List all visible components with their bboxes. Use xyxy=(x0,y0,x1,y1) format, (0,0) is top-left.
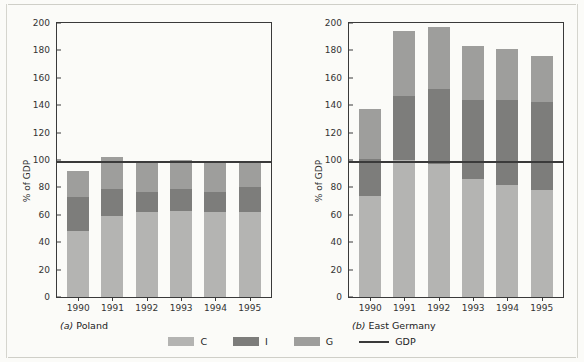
bar-segment-c xyxy=(359,196,381,297)
stacked-bar[interactable] xyxy=(393,23,415,297)
y-axis-tick-label: 0 xyxy=(44,292,50,302)
y-axis-tick-label: 200 xyxy=(33,18,50,28)
x-axis-tick-label: 1995 xyxy=(530,303,553,313)
panel-caption-prefix-poland: (a) xyxy=(60,320,73,331)
chart-legend: CIGGDP xyxy=(0,336,584,347)
bar-segment-c xyxy=(204,212,226,297)
bar-segment-c xyxy=(462,179,484,297)
x-axis-tick-mark xyxy=(147,297,148,301)
legend-label: C xyxy=(200,336,207,347)
x-axis-tick-label: 1991 xyxy=(393,303,416,313)
y-axis-tick-label: 20 xyxy=(39,265,50,275)
y-axis-tick-label: 140 xyxy=(33,100,50,110)
x-axis-tick-mark xyxy=(215,297,216,301)
x-axis-tick-label: 1993 xyxy=(462,303,485,313)
chart-panel-east-germany: % of GDP 0204060801001201401601802001990… xyxy=(292,0,584,362)
x-axis-tick-label: 1993 xyxy=(170,303,193,313)
y-axis-tick-label: 100 xyxy=(33,155,50,165)
y-axis-tick-label: 80 xyxy=(331,182,342,192)
bar-segment-c xyxy=(67,231,89,297)
stacked-bar[interactable] xyxy=(67,23,89,297)
bar-segment-g xyxy=(359,109,381,158)
plot-area-poland: 0204060801001201401601802001990199119921… xyxy=(56,22,272,298)
bar-segment-g xyxy=(67,171,89,197)
panel-caption-east-germany: (b) East Germany xyxy=(352,320,436,331)
stacked-bar[interactable] xyxy=(239,23,261,297)
bar-segment-c xyxy=(531,190,553,297)
legend-item-gdp[interactable]: GDP xyxy=(359,336,415,347)
bar-segment-i xyxy=(239,187,261,212)
legend-item-i[interactable]: I xyxy=(233,336,268,347)
y-axis-tick-label: 140 xyxy=(325,100,342,110)
x-axis-tick-mark xyxy=(507,297,508,301)
legend-swatch-icon xyxy=(294,337,320,346)
bar-segment-i xyxy=(101,189,123,216)
legend-swatch-icon xyxy=(233,337,259,346)
bar-segment-i xyxy=(67,197,89,231)
y-axis-tick-label: 0 xyxy=(336,292,342,302)
x-axis-tick-mark xyxy=(181,297,182,301)
bar-segment-c xyxy=(170,211,192,297)
bar-segment-g xyxy=(496,49,518,100)
panel-caption-text-poland: Poland xyxy=(76,320,108,331)
bar-segment-i xyxy=(170,189,192,211)
bar-segment-i xyxy=(204,192,226,213)
stacked-bar[interactable] xyxy=(496,23,518,297)
x-axis-tick-label: 1992 xyxy=(427,303,450,313)
panel-caption-poland: (a) Poland xyxy=(60,320,108,331)
y-axis-tick-label: 40 xyxy=(39,237,50,247)
bar-segment-i xyxy=(359,159,381,196)
legend-label: G xyxy=(326,336,333,347)
stacked-bar[interactable] xyxy=(204,23,226,297)
bar-segment-c xyxy=(239,212,261,297)
y-axis-tick-label: 120 xyxy=(33,128,50,138)
legend-line-icon xyxy=(359,341,389,343)
bar-segment-i xyxy=(428,89,450,164)
y-axis-tick-label: 160 xyxy=(325,73,342,83)
bar-segment-g xyxy=(428,27,450,89)
bar-segment-g xyxy=(531,56,553,103)
y-axis-tick-label: 40 xyxy=(331,237,342,247)
x-axis-tick-mark xyxy=(250,297,251,301)
panel-caption-text-east-germany: East Germany xyxy=(368,320,435,331)
legend-item-c[interactable]: C xyxy=(168,336,207,347)
bar-segment-i xyxy=(136,192,158,213)
x-axis-tick-label: 1992 xyxy=(135,303,158,313)
x-axis-tick-mark xyxy=(78,297,79,301)
bar-group xyxy=(57,23,271,297)
x-axis-tick-label: 1991 xyxy=(101,303,124,313)
stacked-bar[interactable] xyxy=(359,23,381,297)
y-axis-tick-label: 60 xyxy=(331,210,342,220)
bar-group xyxy=(349,23,563,297)
y-axis-tick-label: 80 xyxy=(39,182,50,192)
legend-label: I xyxy=(265,336,268,347)
x-axis-tick-mark xyxy=(542,297,543,301)
x-axis-tick-label: 1990 xyxy=(67,303,90,313)
bar-segment-c xyxy=(393,160,415,297)
stacked-bar[interactable] xyxy=(531,23,553,297)
bar-segment-g xyxy=(239,163,261,188)
stacked-bar[interactable] xyxy=(462,23,484,297)
y-axis-title-east-germany: % of GDP xyxy=(314,160,324,202)
bar-segment-c xyxy=(428,164,450,297)
x-axis-tick-label: 1995 xyxy=(238,303,261,313)
gdp-reference-line xyxy=(57,161,271,163)
y-axis-tick-label: 60 xyxy=(39,210,50,220)
bar-segment-g xyxy=(462,46,484,99)
x-axis-tick-mark xyxy=(404,297,405,301)
stacked-bar[interactable] xyxy=(170,23,192,297)
x-axis-tick-label: 1990 xyxy=(359,303,382,313)
x-axis-tick-mark xyxy=(370,297,371,301)
stacked-bar[interactable] xyxy=(428,23,450,297)
legend-item-g[interactable]: G xyxy=(294,336,333,347)
stacked-bar[interactable] xyxy=(101,23,123,297)
bar-segment-i xyxy=(531,102,553,190)
x-axis-tick-mark xyxy=(473,297,474,301)
y-axis-tick-label: 160 xyxy=(33,73,50,83)
y-axis-tick-label: 100 xyxy=(325,155,342,165)
bar-segment-g xyxy=(136,161,158,191)
stacked-bar[interactable] xyxy=(136,23,158,297)
bar-segment-c xyxy=(101,216,123,297)
bar-segment-g xyxy=(393,31,415,95)
legend-label: GDP xyxy=(395,336,415,347)
